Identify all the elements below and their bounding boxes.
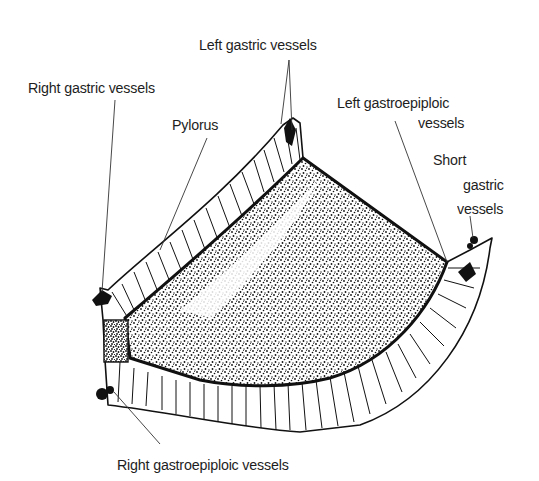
- label-left-gastroepiploic-line1: Left gastroepiploic: [337, 94, 449, 112]
- leader-short-gastric: [470, 216, 473, 238]
- leader-right-gastric: [102, 100, 115, 292]
- label-left-gastric-vessels: Left gastric vessels: [199, 36, 317, 54]
- label-right-gastric-vessels: Right gastric vessels: [28, 79, 155, 97]
- label-short-gastric-line3: vessels: [457, 200, 503, 218]
- leader-left-gastric-a: [281, 60, 289, 124]
- label-pylorus: Pylorus: [172, 116, 218, 134]
- label-short-gastric-line2: gastric: [463, 176, 504, 194]
- stomach-diagram: Left gastric vessels Right gastric vesse…: [0, 0, 539, 481]
- stomach-illustration: [0, 0, 539, 481]
- label-left-gastroepiploic-line2: vessels: [418, 114, 464, 132]
- label-short-gastric-line1: Short: [433, 151, 466, 169]
- label-right-gastroepiploic-vessels: Right gastroepiploic vessels: [117, 456, 289, 474]
